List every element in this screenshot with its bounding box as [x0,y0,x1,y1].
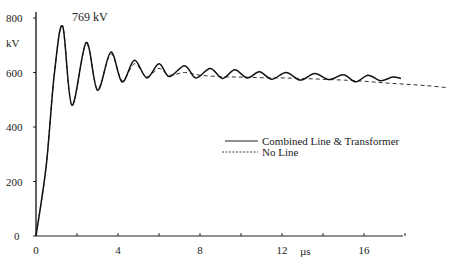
legend-dashed-label: No Line [262,146,298,158]
x-tick-label: 12 [277,244,288,256]
y-axis-unit-label: kV [6,37,20,49]
y-tick-label: 600 [6,67,23,79]
x-tick-label: 8 [197,244,203,256]
y-tick-label: 0 [14,230,20,242]
y-tick-label: 800 [6,12,23,24]
x-tick-label: 0 [33,244,39,256]
x-tick-label: 16 [359,244,371,256]
voltage-transient-chart: 0200400600800 0481216 kV µs 769 kV Combi… [0,0,449,266]
y-tick-label: 400 [6,121,23,133]
legend-item-solid: Combined Line & Transformer [225,135,400,147]
x-tick-label: 4 [115,244,121,256]
combined-line-transformer-series [36,26,401,236]
peak-annotation: 769 kV [72,10,108,24]
legend-item-dashed: No Line [222,146,298,158]
x-axis-unit-label: µs [300,245,311,257]
no-line-series [36,26,446,236]
legend: Combined Line & Transformer No Line [222,135,400,158]
y-tick-label: 200 [6,176,23,188]
